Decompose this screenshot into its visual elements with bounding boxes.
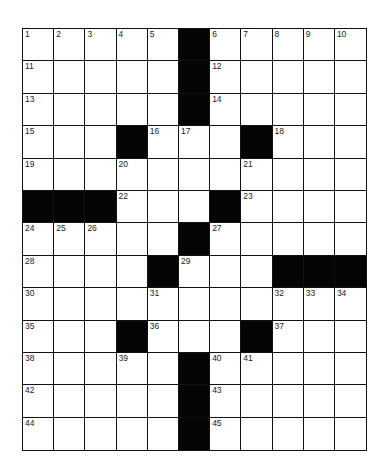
crossword-cell[interactable]: 8 — [273, 29, 304, 61]
crossword-cell[interactable] — [304, 385, 335, 417]
crossword-cell[interactable] — [148, 159, 179, 191]
crossword-cell[interactable] — [273, 353, 304, 385]
crossword-cell[interactable] — [117, 418, 148, 450]
crossword-cell[interactable] — [179, 288, 210, 320]
crossword-cell[interactable] — [273, 223, 304, 255]
crossword-cell[interactable]: 2 — [54, 29, 85, 61]
crossword-cell[interactable]: 6 — [210, 29, 241, 61]
crossword-cell[interactable]: 21 — [241, 159, 272, 191]
crossword-cell[interactable] — [54, 61, 85, 93]
crossword-cell[interactable]: 29 — [179, 256, 210, 288]
crossword-cell[interactable]: 3 — [85, 29, 116, 61]
crossword-cell[interactable]: 14 — [210, 94, 241, 126]
crossword-cell[interactable] — [85, 288, 116, 320]
crossword-cell[interactable] — [54, 353, 85, 385]
crossword-cell[interactable]: 5 — [148, 29, 179, 61]
crossword-cell[interactable] — [179, 191, 210, 223]
crossword-cell[interactable] — [210, 126, 241, 158]
crossword-cell[interactable] — [117, 288, 148, 320]
crossword-cell[interactable] — [179, 159, 210, 191]
crossword-cell[interactable] — [241, 223, 272, 255]
crossword-cell[interactable] — [54, 94, 85, 126]
crossword-cell[interactable]: 22 — [117, 191, 148, 223]
crossword-cell[interactable]: 1 — [23, 29, 54, 61]
crossword-cell[interactable]: 35 — [23, 321, 54, 353]
crossword-cell[interactable]: 43 — [210, 385, 241, 417]
crossword-cell[interactable] — [241, 288, 272, 320]
crossword-cell[interactable] — [85, 418, 116, 450]
crossword-cell[interactable] — [210, 256, 241, 288]
crossword-cell[interactable]: 7 — [241, 29, 272, 61]
crossword-cell[interactable] — [85, 256, 116, 288]
crossword-cell[interactable]: 25 — [54, 223, 85, 255]
crossword-cell[interactable] — [210, 159, 241, 191]
crossword-cell[interactable] — [210, 288, 241, 320]
crossword-cell[interactable]: 31 — [148, 288, 179, 320]
crossword-cell[interactable] — [273, 418, 304, 450]
crossword-cell[interactable] — [304, 61, 335, 93]
crossword-cell[interactable] — [241, 94, 272, 126]
crossword-cell[interactable] — [304, 191, 335, 223]
crossword-cell[interactable] — [54, 126, 85, 158]
crossword-cell[interactable] — [273, 159, 304, 191]
crossword-cell[interactable] — [304, 321, 335, 353]
crossword-cell[interactable]: 33 — [304, 288, 335, 320]
crossword-cell[interactable] — [85, 94, 116, 126]
crossword-cell[interactable]: 41 — [241, 353, 272, 385]
crossword-cell[interactable] — [54, 321, 85, 353]
crossword-cell[interactable] — [148, 94, 179, 126]
crossword-cell[interactable] — [148, 353, 179, 385]
crossword-cell[interactable] — [148, 61, 179, 93]
crossword-cell[interactable]: 37 — [273, 321, 304, 353]
crossword-cell[interactable]: 18 — [273, 126, 304, 158]
crossword-cell[interactable]: 16 — [148, 126, 179, 158]
crossword-cell[interactable]: 40 — [210, 353, 241, 385]
crossword-cell[interactable] — [85, 385, 116, 417]
crossword-cell[interactable] — [304, 418, 335, 450]
crossword-cell[interactable] — [117, 256, 148, 288]
crossword-cell[interactable] — [54, 418, 85, 450]
crossword-cell[interactable] — [148, 223, 179, 255]
crossword-cell[interactable]: 12 — [210, 61, 241, 93]
crossword-cell[interactable]: 4 — [117, 29, 148, 61]
crossword-cell[interactable] — [148, 191, 179, 223]
crossword-cell[interactable] — [85, 61, 116, 93]
crossword-cell[interactable] — [241, 418, 272, 450]
crossword-cell[interactable] — [304, 159, 335, 191]
crossword-cell[interactable] — [241, 61, 272, 93]
crossword-cell[interactable]: 10 — [335, 29, 366, 61]
crossword-cell[interactable]: 32 — [273, 288, 304, 320]
crossword-cell[interactable]: 44 — [23, 418, 54, 450]
crossword-cell[interactable]: 9 — [304, 29, 335, 61]
crossword-cell[interactable] — [273, 94, 304, 126]
crossword-cell[interactable]: 27 — [210, 223, 241, 255]
crossword-cell[interactable]: 45 — [210, 418, 241, 450]
crossword-cell[interactable]: 11 — [23, 61, 54, 93]
crossword-cell[interactable] — [117, 94, 148, 126]
crossword-cell[interactable] — [335, 191, 366, 223]
crossword-cell[interactable] — [54, 385, 85, 417]
crossword-cell[interactable] — [54, 159, 85, 191]
crossword-cell[interactable]: 23 — [241, 191, 272, 223]
crossword-cell[interactable] — [335, 321, 366, 353]
crossword-cell[interactable] — [304, 126, 335, 158]
crossword-cell[interactable]: 30 — [23, 288, 54, 320]
crossword-cell[interactable] — [273, 61, 304, 93]
crossword-cell[interactable] — [85, 353, 116, 385]
crossword-cell[interactable] — [54, 288, 85, 320]
crossword-cell[interactable]: 38 — [23, 353, 54, 385]
crossword-cell[interactable] — [148, 385, 179, 417]
crossword-cell[interactable] — [85, 321, 116, 353]
crossword-cell[interactable] — [273, 385, 304, 417]
crossword-cell[interactable] — [85, 126, 116, 158]
crossword-cell[interactable] — [335, 223, 366, 255]
crossword-cell[interactable] — [304, 223, 335, 255]
crossword-cell[interactable] — [117, 61, 148, 93]
crossword-cell[interactable] — [241, 385, 272, 417]
crossword-cell[interactable] — [210, 321, 241, 353]
crossword-cell[interactable] — [179, 321, 210, 353]
crossword-cell[interactable]: 39 — [117, 353, 148, 385]
crossword-cell[interactable] — [335, 385, 366, 417]
crossword-cell[interactable]: 19 — [23, 159, 54, 191]
crossword-cell[interactable] — [117, 223, 148, 255]
